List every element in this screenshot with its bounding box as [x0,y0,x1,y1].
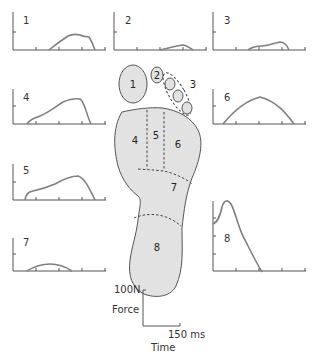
region-3-label: 3 [190,79,196,90]
chart-2-curve [160,45,193,50]
chart-5-curve [25,176,95,200]
chart-5: 5 [13,164,106,200]
force-scale-value: 100N [114,284,141,295]
chart-8: 8 [213,201,306,272]
chart-5-label: 5 [23,165,29,176]
chart-1-curve [49,34,95,50]
chart-2: 2 [114,12,207,50]
region-7-label: 7 [171,182,177,193]
chart-1-label: 1 [23,15,29,26]
chart-2-label: 2 [125,15,131,26]
chart-6-label: 6 [224,92,230,103]
time-scale-value: 150 ms [168,329,205,340]
region-3-toe-c [182,102,192,114]
region-4-label: 4 [132,135,138,146]
chart-3-label: 3 [224,15,230,26]
chart-4: 4 [13,89,106,124]
region-3-toe-b [173,90,183,102]
region-8-label: 8 [154,242,160,253]
chart-4-curve [27,99,91,124]
chart-7-label: 7 [23,237,29,248]
region-5-label: 5 [153,130,159,141]
chart-7: 7 [13,237,106,271]
foot-pressure-diagram: 1 2 3 4 5 7 6 8 [0,0,320,364]
force-axis-label: Force [112,304,139,315]
region-6-label: 6 [175,139,181,150]
chart-6: 6 [213,89,306,124]
chart-7-curve [27,264,72,271]
time-axis-label: Time [150,342,175,353]
chart-8-label: 8 [224,233,230,244]
chart-1: 1 [13,12,106,50]
chart-6-curve [223,97,294,124]
chart-3: 3 [213,12,306,50]
region-1-label: 1 [130,79,136,90]
region-3-toe-a [165,78,175,90]
region-2-label: 2 [154,70,160,81]
chart-4-label: 4 [23,92,29,103]
chart-3-curve [248,42,289,50]
chart-8-curve [213,201,262,272]
foot-map: 1 2 3 4 5 6 7 8 [115,65,201,296]
